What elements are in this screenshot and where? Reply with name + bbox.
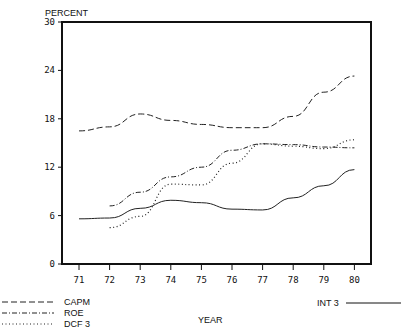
- legend-item-int3: INT 3: [317, 298, 401, 308]
- series-roe: [110, 144, 355, 206]
- series-int-3: [79, 170, 354, 219]
- x-tick-label: 74: [165, 275, 176, 285]
- y-axis-ticks: 0612182430: [44, 17, 62, 269]
- line-chart: PERCENT 0612182430 71727374757677787980 …: [0, 0, 406, 335]
- y-tick-label: 0: [50, 259, 55, 269]
- x-tick-label: 76: [227, 275, 238, 285]
- x-axis-ticks: 71727374757677787980: [74, 264, 360, 285]
- legend-label: CAPM: [64, 297, 90, 307]
- legend-label: INT 3: [317, 298, 339, 308]
- x-tick-label: 73: [135, 275, 146, 285]
- y-tick-label: 12: [44, 162, 55, 172]
- series-capm: [79, 76, 354, 131]
- series-dcf-3: [110, 140, 355, 228]
- x-tick-label: 80: [349, 275, 360, 285]
- legend-left: CAPMROEDCF 3: [2, 297, 90, 329]
- x-tick-label: 72: [104, 275, 115, 285]
- x-axis-label: YEAR: [198, 315, 223, 325]
- plot-frame: [62, 22, 371, 264]
- y-tick-label: 30: [44, 17, 55, 27]
- legend-label: DCF 3: [64, 319, 90, 329]
- data-lines: [79, 76, 354, 228]
- y-tick-label: 6: [50, 211, 55, 221]
- x-tick-label: 79: [318, 275, 329, 285]
- x-tick-label: 71: [74, 275, 85, 285]
- x-tick-label: 78: [288, 275, 299, 285]
- y-tick-label: 18: [44, 114, 55, 124]
- x-tick-label: 75: [196, 275, 207, 285]
- x-tick-label: 77: [257, 275, 268, 285]
- legend-label: ROE: [64, 308, 84, 318]
- y-tick-label: 24: [44, 65, 55, 75]
